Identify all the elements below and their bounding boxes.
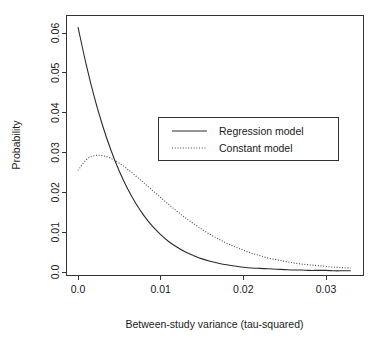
legend-label-regression: Regression model [219,125,304,137]
y-tick-label: 0.05 [49,62,61,83]
x-tick-label: 0.02 [233,283,254,295]
x-tick-label: 0.01 [150,283,171,295]
y-tick-label: 0.01 [49,222,61,243]
y-tick-label: 0.03 [49,142,61,163]
x-tick-label: 0.0 [71,283,86,295]
x-tick-label: 0.03 [316,283,337,295]
x-axis-title: Between-study variance (tau-squared) [125,318,303,330]
y-tick-label: 0.02 [49,182,61,203]
x-axis-ticks [78,276,326,281]
legend-box [159,118,339,161]
x-axis-tick-labels: 0.00.010.020.03 [71,283,337,295]
legend-label-constant: Constant model [219,142,293,154]
series-line-constant-model [78,155,351,268]
chart-figure: 0.00.010.020.030.040.050.06 0.00.010.020… [0,0,378,343]
y-tick-label: 0.04 [49,102,61,123]
y-axis-ticks [62,33,67,272]
y-tick-label: 0.06 [49,23,61,44]
y-axis-title: Probability [10,120,22,170]
y-tick-label: 0.0 [49,265,61,280]
y-axis-tick-labels: 0.00.010.020.030.040.050.06 [49,23,61,280]
chart-canvas: 0.00.010.020.030.040.050.06 0.00.010.020… [0,0,378,343]
chart-legend: Regression model Constant model [159,118,339,161]
